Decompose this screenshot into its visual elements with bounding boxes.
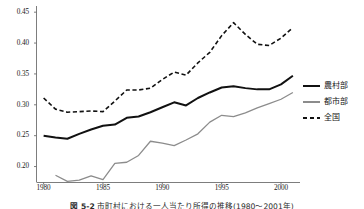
x-tick-label: 1995 (206, 184, 238, 192)
legend-item-urban: 都市部 (303, 94, 364, 110)
axis-lines (34, 6, 300, 185)
y-tick-label: 0.45 (3, 8, 29, 16)
x-tick-label: 1980 (28, 184, 60, 192)
y-tick-label: 0.20 (3, 162, 29, 170)
data-series-group (44, 23, 293, 182)
legend-line-swatch-national (303, 114, 320, 122)
legend-label-rural: 農村部 (324, 82, 348, 90)
series-line-都市部 (55, 92, 292, 181)
legend-line-swatch-urban (303, 98, 320, 106)
figure-caption: 図 5-2 市町村における一人当たり所得の推移(1980〜2001年) (0, 200, 364, 209)
series-line-全国 (44, 23, 293, 113)
y-tick-label: 0.40 (3, 39, 29, 47)
x-tick-label: 2000 (265, 184, 297, 192)
y-tick-label: 0.30 (3, 101, 29, 109)
figure-container: 0.200.250.300.350.400.45 198019851990199… (0, 0, 364, 209)
x-tick-label: 1985 (87, 184, 119, 192)
legend-line-swatch-rural (303, 82, 320, 90)
x-tick-label: 1990 (146, 184, 178, 192)
legend-label-urban: 都市部 (324, 98, 348, 106)
legend-item-rural: 農村部 (303, 78, 364, 94)
chart-legend: 農村部 都市部 全国 (303, 78, 364, 126)
legend-item-national: 全国 (303, 110, 364, 126)
legend-label-national: 全国 (324, 114, 340, 122)
y-tick-label: 0.35 (3, 70, 29, 78)
figure-caption-text: 市町村における一人当たり所得の推移(1980〜2001年) (97, 202, 294, 209)
y-tick-label: 0.25 (3, 131, 29, 139)
figure-caption-label: 図 5-2 (70, 202, 94, 209)
series-line-農村部 (44, 76, 293, 139)
